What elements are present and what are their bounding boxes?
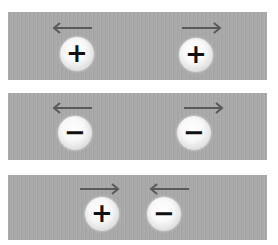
arrow-left-icon bbox=[51, 102, 93, 114]
panel-positive-negative: + − bbox=[8, 175, 267, 240]
positive-charge: + bbox=[85, 197, 119, 231]
positive-charge: + bbox=[60, 37, 94, 71]
arrow-left-icon bbox=[51, 22, 93, 34]
minus-sign: − bbox=[153, 200, 175, 226]
plus-sign: + bbox=[91, 200, 113, 226]
negative-charge: − bbox=[58, 116, 92, 150]
negative-charge: − bbox=[177, 116, 211, 150]
arrow-right-icon bbox=[183, 102, 225, 114]
arrow-right-icon bbox=[181, 22, 223, 34]
positive-charge: + bbox=[179, 38, 213, 72]
arrow-left-icon bbox=[148, 183, 190, 195]
minus-sign: − bbox=[64, 119, 86, 145]
panel-positive-positive: + + bbox=[8, 12, 267, 80]
arrow-right-icon bbox=[79, 183, 121, 195]
negative-charge: − bbox=[147, 197, 181, 231]
plus-sign: + bbox=[185, 41, 207, 67]
plus-sign: + bbox=[66, 40, 88, 66]
panel-negative-negative: − − bbox=[8, 93, 267, 160]
minus-sign: − bbox=[183, 119, 205, 145]
